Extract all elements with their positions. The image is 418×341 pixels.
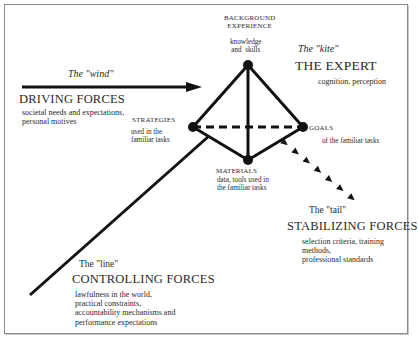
controlling-desc-line1: lawfulness in the world, bbox=[75, 290, 175, 299]
tail-arrows bbox=[280, 138, 354, 200]
controlling-forces-desc: lawfulness in the world, practical const… bbox=[75, 290, 175, 327]
node-background bbox=[243, 60, 253, 70]
controlling-desc-line2: practical constraints, bbox=[75, 299, 175, 308]
stabilizing-desc-line2: methods, bbox=[302, 246, 384, 255]
driving-desc-line2: personal motives bbox=[22, 117, 124, 126]
tail-arrowhead bbox=[314, 166, 321, 173]
wind-metaphor: The "wind" bbox=[68, 68, 113, 80]
tail-metaphor: The "tail" bbox=[309, 205, 346, 216]
node-goals bbox=[298, 122, 308, 132]
background-desc: knowledge and skills bbox=[230, 38, 262, 55]
line-metaphor: The "line" bbox=[79, 259, 118, 270]
stabilizing-forces-title: STABILIZING FORCES bbox=[287, 219, 418, 233]
node-materials bbox=[243, 155, 253, 165]
driving-forces-desc: societal needs and expectations, persona… bbox=[22, 108, 124, 126]
controlling-desc-line3: accountability mechanisms and bbox=[75, 308, 175, 317]
tail-arrowhead bbox=[336, 184, 343, 191]
tail-arrowhead bbox=[325, 175, 332, 182]
edge-top-left bbox=[193, 65, 248, 127]
strategies-desc-line2: familiar tasks bbox=[131, 136, 170, 144]
stabilizing-desc-line3: professional standards bbox=[302, 255, 384, 264]
goals-label: GOALS bbox=[309, 124, 333, 132]
background-desc-line2: and skills bbox=[230, 46, 262, 54]
materials-desc-line2: the familiar tasks bbox=[217, 184, 269, 192]
background-desc-line1: knowledge bbox=[230, 38, 262, 46]
materials-desc: data, tools used in the familiar tasks bbox=[217, 176, 269, 193]
expert-desc: cognition, perception bbox=[318, 77, 386, 86]
strategies-desc-line1: used in the bbox=[131, 128, 170, 136]
tail-arrowhead bbox=[303, 157, 310, 164]
driving-forces-title: DRIVING FORCES bbox=[19, 92, 125, 106]
strategies-desc: used in the familiar tasks bbox=[131, 128, 170, 145]
expert-title: THE EXPERT bbox=[295, 58, 377, 74]
edge-top-right bbox=[248, 65, 303, 127]
wind-arrowhead bbox=[186, 82, 202, 92]
kite-metaphor: The "kite" bbox=[298, 43, 338, 55]
materials-label: MATERIALS bbox=[216, 167, 257, 175]
background-label-line1: BACKGROUND bbox=[224, 14, 275, 22]
node-strategies bbox=[188, 122, 198, 132]
tail-arrowhead bbox=[347, 193, 354, 200]
background-label: BACKGROUND EXPERIENCE bbox=[224, 14, 275, 30]
background-label-line2: EXPERIENCE bbox=[224, 22, 275, 30]
stabilizing-forces-desc: selection criteria, training methods, pr… bbox=[302, 237, 384, 265]
edge-right-bottom bbox=[248, 127, 303, 160]
controlling-desc-line4: performance expectations bbox=[75, 318, 175, 327]
driving-desc-line1: societal needs and expectations, bbox=[22, 108, 124, 117]
strategies-label: STRATEGIES bbox=[132, 116, 175, 124]
materials-desc-line1: data, tools used in bbox=[217, 176, 269, 184]
controlling-forces-title: CONTROLLING FORCES bbox=[72, 272, 215, 286]
stabilizing-desc-line1: selection criteria, training bbox=[302, 237, 384, 246]
goals-desc: of the familiar tasks bbox=[322, 137, 379, 145]
tail-arrowhead bbox=[291, 147, 298, 154]
